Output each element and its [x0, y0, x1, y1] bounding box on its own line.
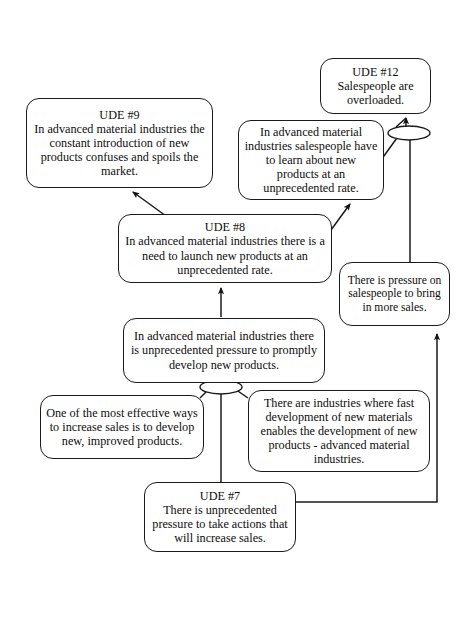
node-ude7-title: UDE #7 — [200, 489, 240, 503]
node-pressure-salespeople-text: There is pressure on salespeople to brin… — [345, 274, 444, 314]
node-ude9[interactable]: UDE #9 In advanced material industries t… — [26, 98, 213, 188]
node-develop-pressure[interactable]: In advanced material industries there is… — [123, 318, 325, 383]
node-ude7[interactable]: UDE #7 There is unprecedented pressure t… — [144, 482, 296, 552]
node-salespeople-learn-text: In advanced material industries salespeo… — [244, 125, 378, 196]
node-ude7-text: There is unprecedented pressure to take … — [150, 503, 290, 545]
node-pressure-salespeople[interactable]: There is pressure on salespeople to brin… — [339, 262, 450, 326]
and-junction-upper-ellipse — [388, 126, 430, 140]
node-ude8-title: UDE #8 — [205, 220, 245, 234]
node-fast-development-text: There are industries where fast developm… — [254, 396, 424, 467]
node-salespeople-learn[interactable]: In advanced material industries salespeo… — [238, 120, 384, 200]
node-ude8[interactable]: UDE #8 In advanced material industries t… — [118, 214, 332, 283]
edge-fastdev-to-junction — [232, 387, 248, 398]
edge-ude8-to-ude9 — [133, 192, 166, 216]
node-fast-development[interactable]: There are industries where fast developm… — [248, 390, 430, 472]
node-effective-ways-text: One of the most effective ways to increa… — [46, 406, 198, 448]
node-ude12[interactable]: UDE #12 Salespeople are overloaded. — [320, 58, 431, 114]
edge-salespeople-to-ude12 — [381, 131, 402, 160]
edge-effective-to-junction — [200, 387, 211, 398]
node-ude9-title: UDE #9 — [99, 108, 139, 122]
node-ude12-text: Salespeople are overloaded. — [326, 79, 425, 107]
node-effective-ways[interactable]: One of the most effective ways to increa… — [40, 395, 204, 459]
node-ude9-text: In advanced material industries the cons… — [32, 122, 207, 179]
node-ude12-title: UDE #12 — [352, 65, 398, 79]
diagram-canvas: UDE #9 In advanced material industries t… — [0, 0, 466, 642]
node-develop-pressure-text: In advanced material industries there is… — [129, 329, 319, 371]
node-ude8-text: In advanced material industries there is… — [124, 234, 326, 276]
